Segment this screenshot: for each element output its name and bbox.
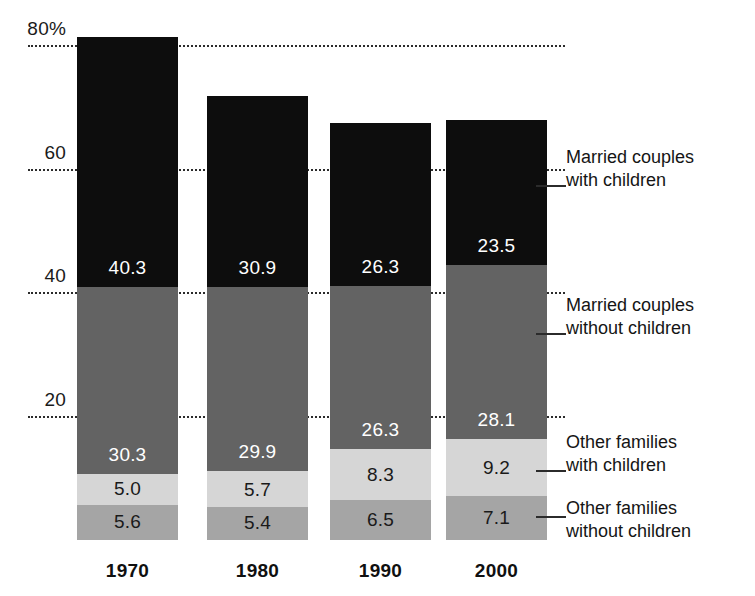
y-axis-tick-80: 80% bbox=[0, 18, 66, 40]
stacked-bar-chart: 80% 60 40 20 40.3 30.3 5.0 5.6 1970 30.9… bbox=[0, 0, 755, 596]
segment-value: 7.1 bbox=[446, 507, 547, 529]
bar-1970: 40.3 30.3 5.0 5.6 bbox=[77, 37, 178, 540]
legend-leader-other-without-children bbox=[536, 516, 566, 518]
segment-value: 8.3 bbox=[330, 464, 431, 486]
y-axis-tick-40: 40 bbox=[0, 265, 66, 287]
x-axis-label-1980: 1980 bbox=[207, 560, 308, 582]
bar-2000: 23.5 28.1 9.2 7.1 bbox=[446, 120, 547, 540]
bar-1980: 30.9 29.9 5.7 5.4 bbox=[207, 95, 308, 540]
segment-value: 26.3 bbox=[330, 419, 431, 441]
legend-item-married-without-children: Married couples without children bbox=[566, 294, 694, 340]
segment-value: 30.3 bbox=[77, 444, 178, 466]
segment-1980-married-with-children: 30.9 bbox=[207, 96, 308, 287]
segment-1990-other-without-children: 6.5 bbox=[330, 500, 431, 540]
legend-label-line2: with children bbox=[566, 454, 677, 477]
segment-1970-married-without-children: 30.3 bbox=[77, 287, 178, 475]
legend-label-line1: Other families bbox=[566, 497, 691, 520]
segment-1990-married-with-children: 26.3 bbox=[330, 123, 431, 286]
segment-2000-married-with-children: 23.5 bbox=[446, 120, 547, 266]
segment-value: 30.9 bbox=[207, 257, 308, 279]
legend-item-married-with-children: Married couples with children bbox=[566, 146, 694, 192]
segment-2000-other-without-children: 7.1 bbox=[446, 496, 547, 540]
legend-label-line1: Other families bbox=[566, 431, 677, 454]
segment-value: 9.2 bbox=[446, 457, 547, 479]
segment-value: 5.0 bbox=[77, 478, 178, 500]
x-axis-label-1970: 1970 bbox=[77, 560, 178, 582]
segment-value: 28.1 bbox=[446, 409, 547, 431]
segment-1980-married-without-children: 29.9 bbox=[207, 287, 308, 471]
segment-value: 29.9 bbox=[207, 441, 308, 463]
legend-label-line2: without children bbox=[566, 317, 694, 340]
y-axis-tick-20: 20 bbox=[0, 389, 66, 411]
legend-leader-other-with-children bbox=[536, 470, 566, 472]
legend-item-other-with-children: Other families with children bbox=[566, 431, 677, 477]
segment-value: 26.3 bbox=[330, 256, 431, 278]
segment-2000-married-without-children: 28.1 bbox=[446, 265, 547, 439]
segment-1990-other-with-children: 8.3 bbox=[330, 449, 431, 500]
legend-label-line2: with children bbox=[566, 169, 694, 192]
legend-label-line1: Married couples bbox=[566, 294, 694, 317]
segment-1970-other-with-children: 5.0 bbox=[77, 474, 178, 505]
segment-value: 5.4 bbox=[207, 512, 308, 534]
segment-1970-married-with-children: 40.3 bbox=[77, 37, 178, 287]
legend-leader-married-with-children bbox=[536, 185, 566, 187]
segment-value: 23.5 bbox=[446, 235, 547, 257]
y-axis-tick-60: 60 bbox=[0, 142, 66, 164]
legend-leader-married-without-children bbox=[536, 333, 566, 335]
segment-value: 40.3 bbox=[77, 257, 178, 279]
segment-value: 5.7 bbox=[207, 479, 308, 501]
x-axis-label-1990: 1990 bbox=[330, 560, 431, 582]
segment-1980-other-without-children: 5.4 bbox=[207, 507, 308, 540]
bar-1990: 26.3 26.3 8.3 6.5 bbox=[330, 123, 431, 540]
segment-2000-other-with-children: 9.2 bbox=[446, 439, 547, 496]
segment-1980-other-with-children: 5.7 bbox=[207, 471, 308, 506]
segment-value: 5.6 bbox=[77, 511, 178, 533]
legend-label-line2: without children bbox=[566, 520, 691, 543]
segment-1990-married-without-children: 26.3 bbox=[330, 286, 431, 449]
legend-item-other-without-children: Other families without children bbox=[566, 497, 691, 543]
segment-1970-other-without-children: 5.6 bbox=[77, 505, 178, 540]
segment-value: 6.5 bbox=[330, 509, 431, 531]
x-axis-label-2000: 2000 bbox=[446, 560, 547, 582]
legend-label-line1: Married couples bbox=[566, 146, 694, 169]
